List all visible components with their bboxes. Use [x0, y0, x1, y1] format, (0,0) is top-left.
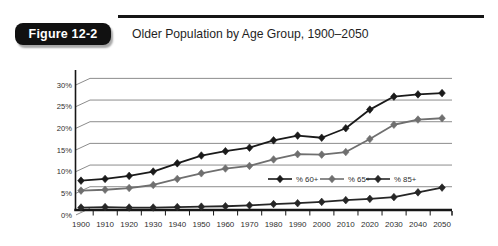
x-axis-tick-label: 1960 [217, 220, 235, 229]
x-axis-tick-label: 1970 [241, 220, 259, 229]
x-axis-tick-label: 2010 [337, 220, 355, 229]
legend-label: % 60+ [296, 175, 319, 184]
x-axis-tick-label: 2020 [361, 220, 379, 229]
series-60-line [78, 89, 446, 184]
legend: % 60+% 65+% 85+ [268, 175, 417, 184]
y-axis-tick-label: 10% [57, 167, 72, 176]
x-axis-tick-label: 1900 [72, 220, 90, 229]
x-axis-tick-label: 1940 [168, 220, 186, 229]
y-axis-tick-label: 30% [57, 81, 72, 90]
x-axis-tick-label: 1980 [265, 220, 283, 229]
older-population-line-chart: 0%5%10%15%20%25%30%190019101920193019401… [0, 0, 498, 246]
legend-label: % 85+ [394, 175, 417, 184]
x-axis-tick-label: 1930 [144, 220, 162, 229]
x-axis-tick-label: 1950 [192, 220, 210, 229]
y-axis-tick-label: 25% [57, 102, 72, 111]
x-axis-tick-label: 1920 [120, 220, 138, 229]
y-axis-tick-label: 0% [61, 211, 72, 220]
x-axis-tick-label: 2050 [433, 220, 451, 229]
x-axis-tick-label: 1910 [96, 220, 114, 229]
y-axis-tick-label: 20% [57, 124, 72, 133]
y-axis-tick-label: 15% [57, 146, 72, 155]
series-65-line [78, 114, 446, 194]
figure-12-2: Figure 12-2 Older Population by Age Grou… [0, 0, 498, 246]
x-axis-tick-label: 1990 [289, 220, 307, 229]
x-axis-tick-labels: 1900191019201930194019501960197019801990… [72, 220, 451, 229]
x-axis-tick-label: 2030 [385, 220, 403, 229]
y-axis-tick-label: 5% [61, 189, 72, 198]
x-axis-tick-label: 2000 [313, 220, 331, 229]
x-axis-tick-label: 2040 [409, 220, 427, 229]
